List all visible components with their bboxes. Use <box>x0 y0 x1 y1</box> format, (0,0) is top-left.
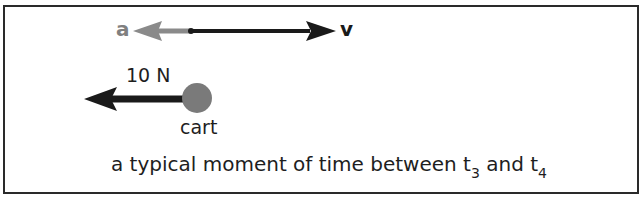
force-label: 10 N <box>126 64 170 86</box>
cart-label: cart <box>180 116 217 138</box>
caption: a typical moment of time between t3 and … <box>111 152 547 176</box>
acceleration-label: a <box>116 17 130 41</box>
acceleration-arrow <box>133 21 190 41</box>
cart-dot <box>182 83 212 113</box>
caption-prefix: a typical moment of time between t <box>111 152 471 176</box>
velocity-arrow <box>188 21 336 41</box>
caption-middle: and t <box>480 152 538 176</box>
caption-subscript-4: 4 <box>538 165 547 181</box>
velocity-label: v <box>340 17 353 41</box>
caption-subscript-3: 3 <box>471 165 480 181</box>
force-arrow <box>84 87 186 111</box>
